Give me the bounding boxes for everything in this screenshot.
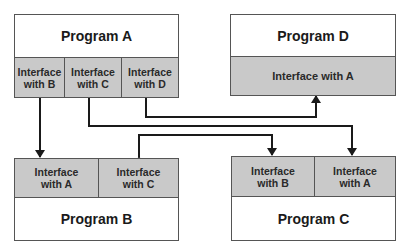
program-a-box: Program A Interface with B Interface wit…: [14, 14, 179, 98]
program-c-interfaces: Interface with B Interface with A: [232, 157, 395, 197]
program-b-title: Program B: [15, 198, 178, 240]
interface-d-with-a: Interface with A: [231, 57, 395, 95]
program-a-title: Program A: [15, 15, 178, 57]
arrow-a-c: [89, 98, 352, 155]
interface-c-with-b: Interface with B: [232, 157, 314, 196]
program-d-title: Program D: [231, 15, 395, 56]
program-d-interfaces: Interface with A: [231, 56, 395, 95]
program-d-box: Program D Interface with A: [230, 14, 396, 96]
interface-a-with-d: Interface with D: [121, 58, 178, 97]
interface-b-with-c: Interface with C: [98, 159, 178, 197]
program-b-interfaces: Interface with A Interface with C: [15, 159, 178, 198]
interface-c-with-a: Interface with A: [314, 157, 395, 196]
program-a-interfaces: Interface with B Interface with C Interf…: [15, 57, 178, 97]
interface-a-with-c: Interface with C: [64, 58, 121, 97]
program-c-title: Program C: [232, 197, 395, 240]
arrow-b-c: [139, 135, 272, 157]
interface-b-with-a: Interface with A: [15, 159, 98, 197]
interface-a-with-b: Interface with B: [15, 58, 64, 97]
arrow-a-d: [146, 96, 316, 117]
program-c-box: Interface with B Interface with A Progra…: [231, 156, 396, 241]
program-b-box: Interface with A Interface with C Progra…: [14, 158, 179, 241]
